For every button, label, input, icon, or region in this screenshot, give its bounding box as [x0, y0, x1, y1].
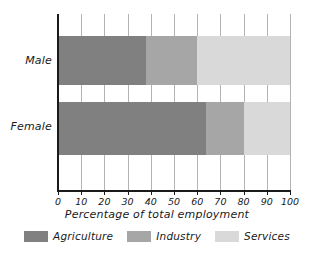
bar-segment-female-agriculture: [58, 102, 206, 155]
category-axis-labels: Male Female: [0, 0, 52, 190]
bar-segment-male-industry: [146, 36, 197, 85]
tick-mark-0: [58, 190, 59, 195]
tick-mark-70: [220, 190, 221, 195]
stacked-bar-chart: Male Female 0102030405060708090100 Perce…: [0, 0, 314, 256]
legend-item-services[interactable]: Services: [215, 230, 290, 242]
legend-label-services: Services: [244, 230, 290, 242]
bar-male: [58, 36, 290, 85]
chart-legend: AgricultureIndustryServices: [0, 230, 314, 242]
category-label-male: Male: [0, 54, 52, 67]
legend-item-industry[interactable]: Industry: [127, 230, 201, 242]
tick-label-90: 90: [261, 196, 273, 207]
tick-mark-100: [290, 190, 291, 195]
legend-label-industry: Industry: [156, 230, 201, 242]
tick-mark-30: [128, 190, 129, 195]
bar-female: [58, 102, 290, 155]
tick-label-20: 20: [98, 196, 110, 207]
tick-mark-20: [104, 190, 105, 195]
tick-label-100: 100: [281, 196, 299, 207]
tick-mark-60: [197, 190, 198, 195]
category-label-female: Female: [0, 120, 52, 133]
legend-swatch-agriculture: [24, 231, 48, 242]
bar-segment-female-services: [244, 102, 290, 155]
legend-item-agriculture[interactable]: Agriculture: [24, 230, 113, 242]
tick-label-70: 70: [214, 196, 226, 207]
tick-label-50: 50: [168, 196, 180, 207]
bar-segment-male-agriculture: [58, 36, 146, 85]
tick-mark-80: [244, 190, 245, 195]
tick-label-30: 30: [122, 196, 134, 207]
tick-mark-10: [81, 190, 82, 195]
tick-mark-90: [267, 190, 268, 195]
legend-swatch-services: [215, 231, 239, 242]
tick-label-10: 10: [75, 196, 87, 207]
tick-mark-40: [151, 190, 152, 195]
tick-label-40: 40: [145, 196, 157, 207]
bar-segment-female-industry: [206, 102, 243, 155]
plot-area: [58, 14, 290, 190]
tick-label-60: 60: [191, 196, 203, 207]
legend-label-agriculture: Agriculture: [53, 230, 113, 242]
bar-segment-male-services: [197, 36, 290, 85]
category-axis-line: [57, 14, 59, 191]
x-axis-title: Percentage of total employment: [0, 208, 314, 221]
tick-label-0: 0: [55, 196, 61, 207]
tick-mark-50: [174, 190, 175, 195]
legend-swatch-industry: [127, 231, 151, 242]
tick-label-80: 80: [238, 196, 250, 207]
gridline-100: [290, 14, 291, 190]
